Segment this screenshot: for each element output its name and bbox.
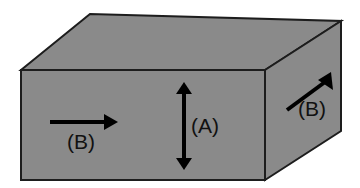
- block-front-face: [21, 70, 265, 180]
- height-arrow-label: (A): [191, 114, 219, 137]
- figure-canvas: (B) (A) (B): [0, 0, 360, 188]
- block-diagram-svg: (B) (A) (B): [0, 0, 360, 188]
- front-arrow-label: (B): [67, 130, 95, 153]
- side-arrow-label: (B): [298, 97, 326, 120]
